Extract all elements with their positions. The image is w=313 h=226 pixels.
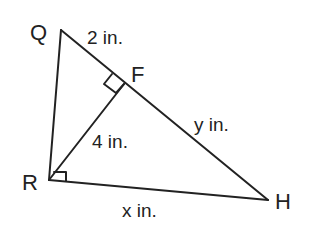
segment-RH bbox=[49, 180, 268, 200]
measure-RH: x in. bbox=[122, 200, 157, 221]
segment-QR bbox=[49, 30, 61, 180]
measure-FH: y in. bbox=[194, 114, 229, 135]
vertex-label-F: F bbox=[131, 62, 144, 87]
measure-RF: 4 in. bbox=[92, 131, 128, 152]
measure-QF: 2 in. bbox=[87, 27, 123, 48]
vertex-label-R: R bbox=[22, 170, 38, 195]
vertex-label-Q: Q bbox=[30, 20, 47, 45]
segment-QH bbox=[61, 30, 268, 200]
right-angle-marker-F bbox=[104, 74, 124, 93]
vertex-label-H: H bbox=[275, 189, 291, 214]
triangle-diagram: Q F R H 2 in. 4 in. y in. x in. bbox=[0, 0, 313, 226]
